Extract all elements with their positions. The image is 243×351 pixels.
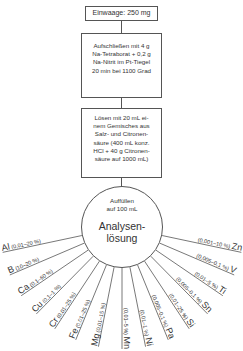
element-label-ti: (0,01–5 %) Ti bbox=[193, 268, 228, 296]
element-label-al: Al (0,01–20 %) bbox=[1, 235, 42, 253]
element-label-mg: Mg (0,01–15 %) bbox=[89, 302, 107, 347]
element-spokes: Al (0,01–20 %) B (10–20 %) Ca (0,1–60 %)… bbox=[0, 0, 243, 351]
element-label-mn: (0,01–5 %) Mn bbox=[122, 308, 132, 349]
fill-up-line: Auffüllen bbox=[82, 197, 162, 205]
circle-title-line: lösung bbox=[82, 232, 162, 244]
analysis-solution-circle: Auffüllen auf 100 mL Analysen- lösung bbox=[81, 186, 163, 268]
element-label-ni: (0,01–1 %) Ni bbox=[138, 309, 155, 347]
circle-title-line: Analysen- bbox=[82, 220, 162, 232]
fill-up-line: auf 100 mL bbox=[82, 205, 162, 213]
element-label-v: (0,005–0,1 %) V bbox=[195, 250, 238, 276]
element-label-zn: (0,001–10 %) Zn bbox=[197, 234, 243, 253]
